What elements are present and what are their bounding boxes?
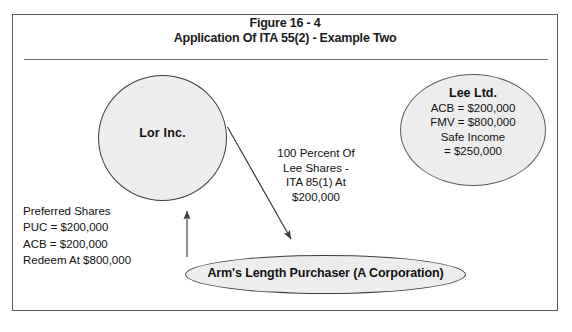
node-lee-ltd-label: Lee Ltd. (400, 86, 546, 101)
figure-title-line-1: Figure 16 - 4 (13, 16, 557, 31)
lee-safe-income-label: Safe Income (400, 130, 546, 145)
node-lee-ltd-details: Lee Ltd. ACB = $200,000 FMV = $800,000 S… (400, 86, 546, 159)
node-lor-inc-label: Lor Inc. (98, 126, 227, 140)
transfer-line-4: $200,000 (258, 190, 374, 205)
lee-acb-value: ACB = $200,000 (400, 101, 546, 116)
preferred-line-3: ACB = $200,000 (23, 236, 183, 252)
figure-title-line-2: Application Of ITA 55(2) - Example Two (13, 31, 557, 46)
preferred-line-4: Redeem At $800,000 (23, 252, 183, 268)
transfer-line-1: 100 Percent Of (258, 146, 374, 161)
preferred-line-1: Preferred Shares (23, 203, 183, 219)
figure-page: Figure 16 - 4 Application Of ITA 55(2) -… (0, 0, 572, 332)
transfer-line-3: ITA 85(1) At (258, 175, 374, 190)
title-divider (24, 59, 548, 60)
figure-title: Figure 16 - 4 Application Of ITA 55(2) -… (13, 16, 557, 46)
lee-fmv-value: FMV = $800,000 (400, 115, 546, 130)
preferred-line-2: PUC = $200,000 (23, 219, 183, 235)
node-arms-length-purchaser-label: Arm's Length Purchaser (A Corporation) (185, 266, 466, 280)
annotation-preferred-shares: Preferred Shares PUC = $200,000 ACB = $2… (23, 203, 183, 269)
annotation-transfer: 100 Percent Of Lee Shares - ITA 85(1) At… (258, 146, 374, 204)
lee-safe-income-value: = $250,000 (400, 144, 546, 159)
transfer-line-2: Lee Shares - (258, 161, 374, 176)
